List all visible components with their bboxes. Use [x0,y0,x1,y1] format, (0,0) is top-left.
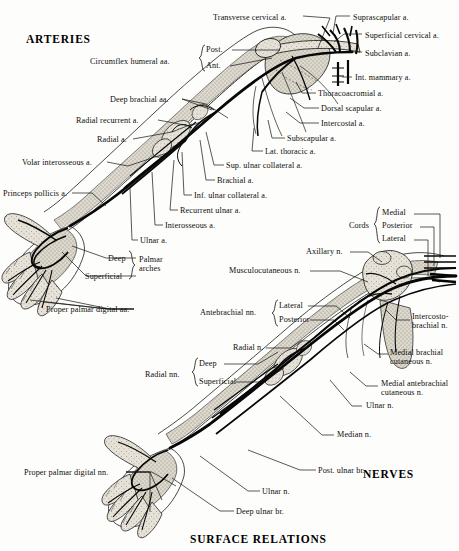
bracket-antebrachial-nn [271,299,279,327]
label-ulnar-n-lower: Ulnar n. [262,487,290,496]
label-radial-superficial: Superficial [199,377,236,386]
figure-caption: SURFACE RELATIONS [190,533,327,545]
label-cord-medial: Medial [382,208,406,217]
panel-title-nerves: NERVES [363,468,414,480]
label-transverse-cervical-a: Transverse cervical a. [213,13,287,22]
label-proper-palmar-digital-aa: Proper palmar digital aa. [46,305,129,314]
label-antebrachial-lateral: Lateral [279,301,303,310]
bracket-circumflex-humeral [198,44,206,72]
bracket-cords [373,206,381,244]
label-musculocutaneous-n: Musculocutaneous n. [229,266,300,275]
label-median-n: Median n. [337,430,371,439]
label-antebrachial-posterior: Posterior [279,315,309,324]
label-interosseous-a: Interosseous a. [165,221,215,230]
label-intercostal-a: Intercostal a. [321,119,365,128]
label-intercostobrachial-n: Intercosto- brachial n. [412,312,449,331]
label-radial-nn: Radial nn. [145,370,180,379]
label-circumflex-humeral-aa: Circumflex humeral aa. [90,57,170,66]
label-subscapular-a: Subscapular a. [287,134,336,143]
label-deep-brachial-aa: Deep brachial aa. [110,95,169,104]
label-palmar-arches: Palmar arches [139,255,163,274]
label-recurrent-ulnar-a: Recurrent ulnar a. [180,206,241,215]
nerves-hand [102,436,185,538]
label-suprascapular-a: Suprascapular a. [353,13,409,22]
label-post-ulnar-br: Post. ulnar br. [318,466,365,475]
label-subclavian-a: Subclavian a. [365,49,410,58]
panel-title-arteries: ARTERIES [26,33,91,45]
label-circumflex-humeral-post: Post. [206,45,223,54]
label-radial-a: Radial a. [97,135,127,144]
label-sup-ulnar-collateral-a: Sup. ulnar collateral a. [226,161,302,170]
label-superficial-cervical-a: Superficial cervical a. [365,31,439,40]
label-ulnar-a: Ulnar a. [140,236,167,245]
label-axillary-n: Axillary n. [306,247,343,256]
label-antebrachial-nn: Antebrachial nn. [200,308,256,317]
label-radial-deep: Deep [199,359,217,368]
arteries-hand [2,214,85,316]
label-ulnar-n-upper: Ulnar n. [366,401,394,410]
label-cords: Cords [349,221,369,230]
label-thoracoacromial-a: Thoracoacromial a. [318,89,383,98]
label-palmar-arch-superficial: Superficial [85,272,122,281]
label-circumflex-humeral-ant: Ant. [206,61,221,70]
label-deep-ulnar-br: Deep ulnar br. [236,507,284,516]
arteries-limb-drawing [2,24,360,316]
label-volar-interosseous-a: Volar interosseous a. [22,158,92,167]
label-palmar-arch-deep: Deep [108,254,126,263]
label-medial-antebrachial-cutaneous-n: Medial antebrachial cutaneous n. [381,379,448,398]
label-medial-brachial-cutaneous-n: Medial brachial cutaneous n. [390,348,443,367]
label-princeps-pollicis-a: Princeps pollicis a. [3,189,67,198]
label-int-mammary-a: Int. mammary a. [355,73,411,82]
label-radial-recurrent-a: Radial recurrent a. [76,116,139,125]
label-radial-n: Radial n. [233,343,263,352]
label-cord-lateral: Lateral [382,234,406,243]
bracket-palmar-arches [128,250,136,280]
label-brachial-a: Brachial a. [217,176,254,185]
label-lat-thoracic-a: Lat. thoracic a. [265,147,316,156]
bracket-radial-nn [191,357,199,387]
label-dorsal-scapular-a: Dorsal scapular a. [321,104,382,113]
anatomy-figure: ARTERIES NERVES SURFACE RELATIONS Transv… [0,0,459,551]
label-inf-ulnar-collateral-a: Inf. ulnar collateral a. [194,191,267,200]
label-proper-palmar-digital-nn: Proper palmar digital nn. [24,468,108,477]
label-cord-posterior: Posterior [382,221,412,230]
